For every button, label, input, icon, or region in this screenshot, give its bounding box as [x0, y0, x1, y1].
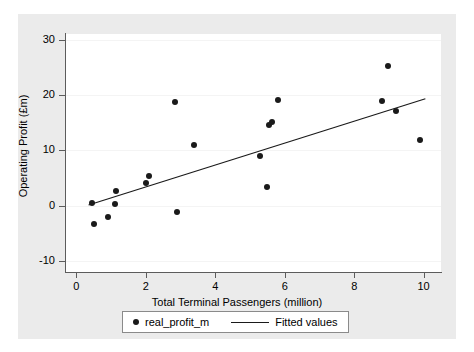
- legend-label-fitted: Fitted values: [275, 317, 337, 328]
- legend-entry-scatter[interactable]: real_profit_m: [133, 317, 209, 328]
- plot-area: [66, 34, 441, 272]
- x-tick-mark: [285, 272, 286, 278]
- legend-marker-line-icon: [231, 322, 269, 323]
- datapoint: [105, 214, 111, 220]
- y-tick-mark: [59, 206, 66, 207]
- y-tick-label: -10: [39, 255, 55, 266]
- x-tick-mark: [146, 272, 147, 278]
- x-tick-label: 6: [282, 281, 288, 292]
- y-tick-label: 10: [43, 144, 55, 155]
- x-tick-label: 8: [351, 281, 357, 292]
- x-tick-label: 10: [418, 281, 430, 292]
- x-tick-mark: [424, 272, 425, 278]
- datapoint: [112, 201, 118, 207]
- chart-legend: real_profit_m Fitted values: [122, 311, 349, 333]
- datapoint: [91, 221, 97, 227]
- datapoint: [89, 200, 95, 206]
- x-tick-label: 4: [212, 281, 218, 292]
- y-axis-title: Operating Profit (£m): [17, 61, 29, 231]
- legend-entry-fitted[interactable]: Fitted values: [231, 317, 337, 328]
- x-tick-mark: [354, 272, 355, 278]
- datapoint: [269, 119, 275, 125]
- y-tick-label: 30: [43, 34, 55, 45]
- x-tick-label: 2: [143, 281, 149, 292]
- y-axis-line: [65, 33, 66, 273]
- datapoint: [393, 108, 399, 114]
- x-tick-label: 0: [73, 281, 79, 292]
- y-tick-mark: [59, 261, 66, 262]
- x-axis-line: [65, 272, 442, 273]
- y-tick-label: 20: [43, 89, 55, 100]
- datapoint: [379, 98, 385, 104]
- y-tick-mark: [59, 95, 66, 96]
- x-axis-title: Total Terminal Passengers (million): [0, 296, 474, 308]
- y-tick-label: 0: [49, 200, 55, 211]
- datapoint: [385, 63, 391, 69]
- fitted-values-line: [66, 34, 441, 272]
- x-tick-mark: [215, 272, 216, 278]
- y-tick-mark: [59, 40, 66, 41]
- y-tick-mark: [59, 150, 66, 151]
- x-tick-mark: [76, 272, 77, 278]
- chart-screenshot: -100102030 0246810 Operating Profit (£m)…: [0, 0, 474, 352]
- datapoint: [417, 137, 423, 143]
- legend-marker-dot-icon: [133, 319, 139, 325]
- legend-label-scatter: real_profit_m: [145, 317, 209, 328]
